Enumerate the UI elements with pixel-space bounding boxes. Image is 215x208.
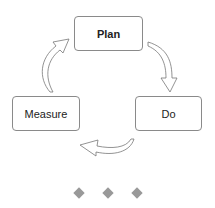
node-plan-label: Plan	[97, 28, 120, 40]
arrow-do-to-measure	[80, 139, 134, 156]
pagination-dots	[0, 188, 215, 200]
pagination-dot-2[interactable]	[102, 187, 113, 198]
node-do-label: Do	[161, 108, 175, 120]
pagination-dot-1[interactable]	[73, 187, 84, 198]
node-measure[interactable]: Measure	[12, 96, 80, 131]
arrow-plan-to-do	[148, 42, 177, 92]
node-measure-label: Measure	[25, 108, 68, 120]
arrow-measure-to-plan	[42, 39, 69, 92]
pagination-dot-3[interactable]	[131, 187, 142, 198]
node-do[interactable]: Do	[135, 96, 202, 131]
node-plan[interactable]: Plan	[74, 16, 143, 51]
